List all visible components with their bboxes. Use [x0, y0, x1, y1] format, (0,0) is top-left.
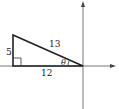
horizontal-leg-label: 12 — [41, 68, 52, 78]
angle-label: θ — [61, 58, 66, 67]
hypotenuse-label: 13 — [49, 39, 61, 49]
y-axis — [81, 1, 85, 109]
right-angle-marker — [13, 58, 21, 66]
vertical-leg-label: 5 — [6, 47, 12, 57]
diagram-canvas: 13 5 12 θ — [0, 0, 119, 109]
triangle — [13, 35, 83, 66]
x-axis-arrow-icon — [110, 64, 116, 68]
y-axis-arrow-icon — [81, 1, 85, 7]
